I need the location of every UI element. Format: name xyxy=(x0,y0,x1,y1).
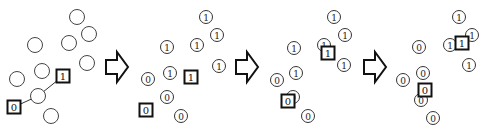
data-point-cluster-1: 1 xyxy=(161,41,174,54)
data-point-cluster-1: 1 xyxy=(288,42,301,55)
right-arrow-icon xyxy=(106,52,128,82)
centroid-label: 0 xyxy=(143,105,149,116)
data-point-cluster-1: 1 xyxy=(339,29,352,42)
data-point-cluster-1: 1 xyxy=(213,60,226,73)
point-label: 0 xyxy=(178,112,184,122)
panel-assign-1: 11111100001 xyxy=(140,11,226,123)
point-circle-icon xyxy=(82,27,97,42)
point-circle-icon xyxy=(31,89,46,104)
data-point xyxy=(70,10,85,25)
data-point-cluster-0: 0 xyxy=(142,73,155,86)
point-label: 1 xyxy=(447,41,453,51)
point-circle-icon xyxy=(28,38,43,53)
data-point xyxy=(80,56,95,71)
data-point xyxy=(82,27,97,42)
centroid-label: 0 xyxy=(422,85,428,96)
centroid-1: 1 xyxy=(456,37,469,50)
data-point-cluster-1: 1 xyxy=(290,67,303,80)
data-point-cluster-1: 1 xyxy=(211,29,224,42)
centroid-label: 0 xyxy=(285,96,291,107)
data-point-cluster-1: 1 xyxy=(191,39,204,52)
data-point xyxy=(44,109,59,124)
point-label: 1 xyxy=(469,31,475,41)
point-label: 1 xyxy=(203,13,209,23)
point-label: 0 xyxy=(305,112,311,122)
data-point xyxy=(31,89,46,104)
point-label: 0 xyxy=(416,43,422,53)
point-circle-icon xyxy=(70,10,85,25)
data-point-cluster-0: 0 xyxy=(161,91,174,104)
point-label: 1 xyxy=(167,69,173,79)
right-arrow-icon xyxy=(236,52,258,82)
point-label: 1 xyxy=(214,31,220,41)
point-label: 1 xyxy=(293,69,299,79)
centroid-1: 1 xyxy=(322,47,335,60)
point-label: 1 xyxy=(331,13,337,23)
point-label: 0 xyxy=(274,76,280,86)
point-label: 0 xyxy=(145,75,151,85)
point-label: 1 xyxy=(341,61,347,71)
point-circle-icon xyxy=(35,64,50,79)
centroid-label: 1 xyxy=(325,48,331,59)
point-circle-icon xyxy=(44,109,59,124)
data-point-cluster-1: 1 xyxy=(338,59,351,72)
data-point-cluster-1: 1 xyxy=(328,11,341,24)
point-label: 1 xyxy=(291,44,297,54)
data-point xyxy=(10,72,25,87)
panel-update-1: 11111100001 xyxy=(271,11,352,123)
data-point-cluster-0: 0 xyxy=(397,74,410,87)
data-point-cluster-0: 0 xyxy=(417,67,430,80)
point-label: 1 xyxy=(216,62,222,72)
data-point xyxy=(28,38,43,53)
kmeans-diagram: 01111111000011111110000111110000001 xyxy=(0,0,485,134)
panel-initial: 01 xyxy=(8,10,97,124)
centroid-1: 1 xyxy=(57,70,70,83)
point-label: 0 xyxy=(420,69,426,79)
centroid-label: 1 xyxy=(188,72,194,83)
data-point xyxy=(62,36,77,51)
point-circle-icon xyxy=(10,72,25,87)
centroid-0: 0 xyxy=(419,84,432,97)
point-label: 0 xyxy=(400,76,406,86)
data-point-cluster-1: 1 xyxy=(453,11,466,24)
data-point-cluster-0: 0 xyxy=(413,41,426,54)
data-point xyxy=(35,64,50,79)
data-point-cluster-1: 1 xyxy=(164,67,177,80)
right-arrow-icon xyxy=(364,52,386,82)
point-label: 0 xyxy=(164,93,170,103)
centroid-label: 1 xyxy=(459,38,465,49)
data-point-cluster-0: 0 xyxy=(271,74,284,87)
centroid-0: 0 xyxy=(282,95,295,108)
centroid-0: 0 xyxy=(140,104,153,117)
data-point-cluster-0: 0 xyxy=(175,110,188,123)
point-label: 0 xyxy=(430,114,436,124)
centroid-1: 1 xyxy=(185,71,198,84)
data-point-cluster-1: 1 xyxy=(200,11,213,24)
point-label: 1 xyxy=(466,61,472,71)
point-label: 1 xyxy=(342,31,348,41)
centroid-label: 1 xyxy=(60,71,66,82)
panel-assign-2: 11110000001 xyxy=(397,11,479,125)
point-label: 1 xyxy=(456,13,462,23)
point-circle-icon xyxy=(62,36,77,51)
point-label: 1 xyxy=(194,41,200,51)
data-point-cluster-0: 0 xyxy=(427,112,440,125)
point-label: 1 xyxy=(164,43,170,53)
centroid-label: 0 xyxy=(11,102,17,113)
point-circle-icon xyxy=(80,56,95,71)
data-point-cluster-1: 1 xyxy=(463,59,476,72)
data-point-cluster-0: 0 xyxy=(302,110,315,123)
centroid-0: 0 xyxy=(8,101,21,114)
